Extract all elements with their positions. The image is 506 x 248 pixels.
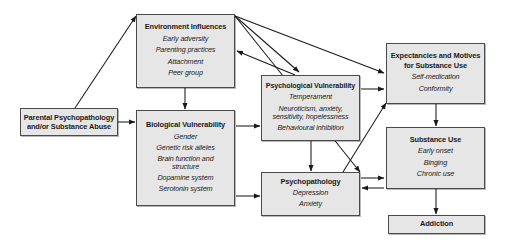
node-environment-item-parenting-practices: Parenting practices xyxy=(156,46,216,54)
node-psychological-vulnerability[interactable]: Psychological Vulnerability Temperament … xyxy=(261,75,360,141)
node-parental-title-line2: and/or Substance Abuse xyxy=(27,122,111,131)
node-expectancies-title-line1: Expectancies and Motives xyxy=(391,52,481,61)
node-environment-item-peer-group: Peer group xyxy=(168,69,203,77)
diagram-canvas: Parental Psychopathology and/or Substanc… xyxy=(0,0,506,248)
node-substance-item-chronic-use: Chronic use xyxy=(417,170,454,178)
node-psychological-item-neuroticism: Neuroticism, anxiety, sensitivity, hopel… xyxy=(272,105,350,121)
node-expectancies-item-self-medication: Self-medication xyxy=(411,73,459,81)
node-psychological-item-behavioural-inhibition: Behavioural inhibition xyxy=(277,124,343,132)
node-psychopathology-item-anxiety: Anxiety xyxy=(299,200,322,208)
node-biological-item-brain-function: Brain function and structure xyxy=(154,155,218,171)
node-addiction[interactable]: Addiction xyxy=(388,215,485,234)
node-biological-item-dopamine-system: Dopamine system xyxy=(157,174,213,182)
node-psychopathology-item-depression: Depression xyxy=(293,189,328,197)
node-expectancies-item-conformity: Conformity xyxy=(419,85,453,93)
edge-environment-expectancies xyxy=(235,16,384,73)
node-psychological-title: Psychological Vulnerability xyxy=(266,82,355,91)
node-expectancies-title-line2: for Substance Use xyxy=(404,62,467,71)
node-substance-item-early-onset: Early onset xyxy=(418,147,453,155)
node-substance-item-binging: Binging xyxy=(424,159,447,167)
edge-psychological-environment xyxy=(237,51,295,75)
node-addiction-title: Addiction xyxy=(420,220,453,229)
node-substance-use[interactable]: Substance Use Early onset Binging Chroni… xyxy=(386,127,485,189)
node-biological-vulnerability[interactable]: Biological Vulnerability Gender Genetic … xyxy=(136,110,235,206)
node-environment-item-attachment: Attachment xyxy=(168,58,203,66)
node-psychological-item-temperament: Temperament xyxy=(289,93,332,101)
node-biological-item-gender: Gender xyxy=(174,133,197,141)
edge-parental-environment xyxy=(75,16,136,108)
node-environment-title: Environment Influences xyxy=(145,23,227,32)
node-biological-item-genetic-risk-alleles: Genetic risk alleles xyxy=(156,144,214,152)
node-biological-item-serotonin-system: Serotonin system xyxy=(159,185,213,193)
node-parental-psychopathology[interactable]: Parental Psychopathology and/or Substanc… xyxy=(20,108,118,136)
node-substance-title: Substance Use xyxy=(410,136,462,145)
node-parental-title-line1: Parental Psychopathology xyxy=(24,113,114,122)
node-environment-item-early-adversity: Early adversity xyxy=(163,35,209,43)
node-expectancies-motives[interactable]: Expectancies and Motives for Substance U… xyxy=(386,43,485,104)
node-environment-influences[interactable]: Environment Influences Early adversity P… xyxy=(136,14,235,88)
node-psychopathology[interactable]: Psychopathology Depression Anxiety xyxy=(261,172,360,216)
edge-environment-psychological xyxy=(235,16,299,72)
node-biological-title: Biological Vulnerability xyxy=(146,121,225,130)
node-psychopathology-title: Psychopathology xyxy=(280,178,340,187)
